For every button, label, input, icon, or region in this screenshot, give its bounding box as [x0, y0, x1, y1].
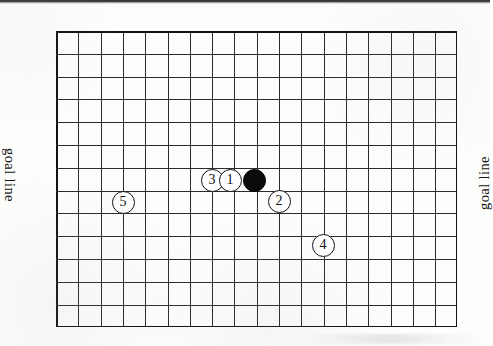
stone-1-label: 1: [227, 173, 234, 187]
scan-top-edge-line: [0, 0, 490, 2]
stone-1[interactable]: 1: [219, 169, 242, 192]
stone-5[interactable]: 5: [112, 191, 135, 214]
stone-black[interactable]: [243, 169, 266, 192]
stone-3-label: 3: [209, 173, 216, 187]
stone-4[interactable]: 4: [312, 234, 335, 257]
goal-line-label-left: goal line: [1, 148, 18, 202]
goal-line-label-right: goal line: [476, 156, 493, 210]
stone-2[interactable]: 2: [268, 190, 291, 213]
stone-2-label: 2: [276, 194, 283, 208]
scan-smudge: [300, 334, 480, 344]
go-board: 31254: [56, 31, 457, 327]
stone-4-label: 4: [320, 238, 327, 252]
stone-5-label: 5: [120, 195, 127, 209]
